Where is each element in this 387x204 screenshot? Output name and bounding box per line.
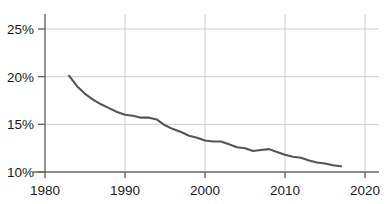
x-axis-tick-label: 2000 (190, 183, 220, 198)
x-axis-tick-label: 2020 (350, 183, 380, 198)
y-axis-tick-label: 15% (7, 117, 34, 132)
y-axis-tick-label: 25% (7, 22, 34, 37)
x-axis-tick-label: 2010 (270, 183, 300, 198)
chart-background-rect (0, 0, 387, 204)
x-axis-tick-label: 1980 (30, 183, 60, 198)
y-axis-tick-label: 10% (7, 165, 34, 180)
chart-canvas: 10%15%20%25% 19801990200020102020 (0, 0, 387, 204)
line-chart: 10%15%20%25% 19801990200020102020 (0, 0, 387, 204)
y-axis-tick-label: 20% (7, 70, 34, 85)
plot-background (0, 0, 387, 204)
x-axis-tick-label: 1990 (110, 183, 140, 198)
